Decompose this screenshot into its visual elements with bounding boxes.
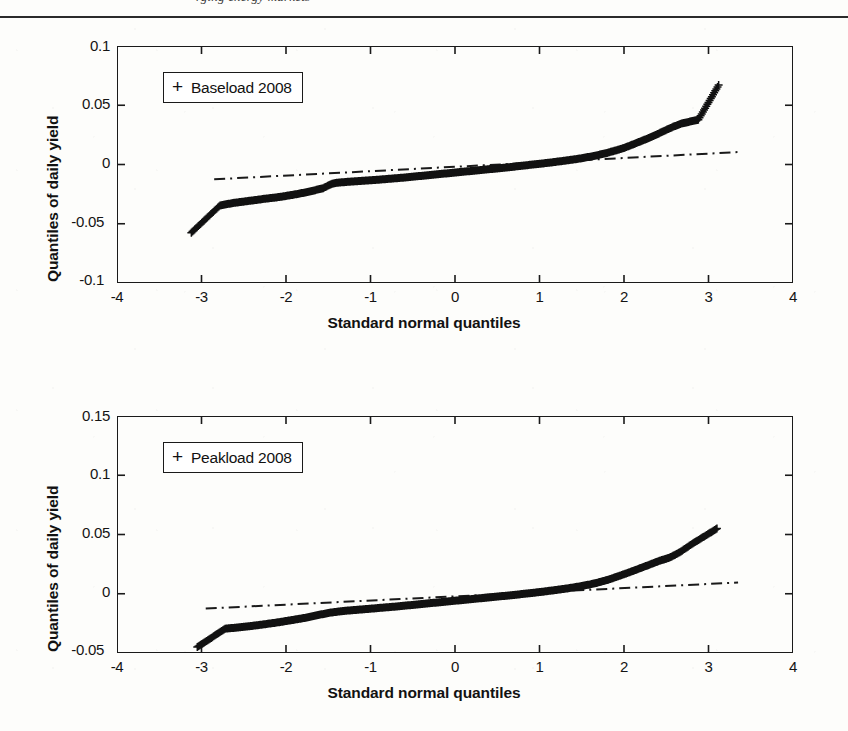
x-tick-1-6: 2 [607, 288, 641, 305]
x-axis-label-1: Standard normal quantiles [0, 314, 848, 332]
legend-marker-icon-2: + [172, 447, 183, 466]
legend-2: + Peakload 2008 [163, 442, 303, 473]
data-markers-1 [187, 81, 722, 237]
plot-canvas-2 [0, 398, 848, 698]
x-tick-2-1: -3 [185, 658, 219, 675]
running-head: rging energy markets [196, 0, 310, 5]
legend-1: + Baseload 2008 [163, 72, 303, 103]
x-tick-2-6: 2 [607, 658, 641, 675]
x-tick-1-8: 4 [776, 288, 810, 305]
legend-label-2: Peakload 2008 [191, 449, 292, 467]
x-tick-2-2: -2 [269, 658, 303, 675]
data-markers-2 [193, 525, 721, 652]
x-axis-label-2: Standard normal quantiles [0, 684, 848, 702]
x-tick-2-7: 3 [692, 658, 726, 675]
header-rule [0, 16, 848, 18]
x-tick-2-4: 0 [438, 658, 472, 675]
x-tick-1-7: 3 [692, 288, 726, 305]
x-tick-1-4: 0 [438, 288, 472, 305]
x-tick-2-5: 1 [523, 658, 557, 675]
plot-canvas-1 [0, 28, 848, 328]
y-tick-marks-2 [117, 475, 793, 594]
x-tick-2-3: -1 [354, 658, 388, 675]
x-tick-1-0: -4 [100, 288, 134, 305]
legend-label-1: Baseload 2008 [191, 79, 292, 97]
x-tick-1-5: 1 [523, 288, 557, 305]
scanned-page: rging energy markets Quantiles of daily … [0, 0, 848, 731]
reference-line-1 [214, 152, 738, 179]
x-tick-2-8: 4 [776, 658, 810, 675]
x-tick-1-3: -1 [354, 288, 388, 305]
x-tick-2-0: -4 [100, 658, 134, 675]
x-tick-1-1: -3 [185, 288, 219, 305]
x-tick-1-2: -2 [269, 288, 303, 305]
legend-marker-icon-1: + [172, 77, 183, 96]
